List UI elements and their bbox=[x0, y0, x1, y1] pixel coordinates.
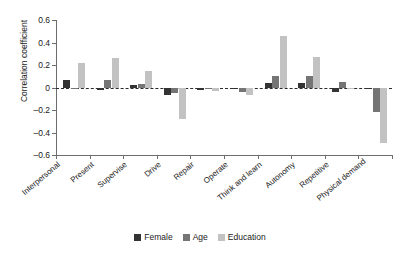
bar-group bbox=[90, 20, 124, 155]
bar-female bbox=[298, 83, 305, 88]
legend-item: Female bbox=[134, 232, 172, 242]
correlation-coefficient-bar-chart: Correlation coefficient 0.60.40.20–0.2–0… bbox=[0, 0, 400, 258]
bar-education bbox=[212, 88, 219, 91]
bar-education bbox=[78, 63, 85, 88]
bar-female bbox=[332, 88, 339, 93]
y-tick-label: 0.6 bbox=[10, 15, 50, 25]
plot-area: 0.60.40.20–0.2–0.4–0.6 bbox=[56, 20, 392, 155]
bar-education bbox=[380, 88, 387, 143]
bar-education bbox=[347, 88, 354, 89]
bar-female bbox=[231, 88, 238, 89]
legend-item: Education bbox=[218, 232, 266, 242]
y-tick-label: –0.4 bbox=[10, 128, 50, 138]
bar-female bbox=[97, 88, 104, 90]
bar-group bbox=[358, 20, 392, 155]
x-tick bbox=[224, 155, 225, 159]
bar-female bbox=[164, 88, 171, 96]
legend-label: Female bbox=[144, 232, 172, 242]
bar-education bbox=[313, 57, 320, 87]
x-tick bbox=[157, 155, 158, 159]
bar-group bbox=[325, 20, 359, 155]
legend-swatch-icon bbox=[218, 234, 225, 241]
bar-age bbox=[239, 88, 246, 93]
bar-group bbox=[224, 20, 258, 155]
x-tick bbox=[291, 155, 292, 159]
bar-age bbox=[104, 80, 111, 88]
legend-label: Age bbox=[193, 232, 208, 242]
bar-age bbox=[306, 76, 313, 87]
bar-education bbox=[246, 88, 253, 96]
bar-education bbox=[280, 36, 287, 88]
bar-age bbox=[373, 88, 380, 113]
bar-group bbox=[123, 20, 157, 155]
x-tick bbox=[90, 155, 91, 159]
legend-swatch-icon bbox=[183, 234, 190, 241]
bar-female bbox=[365, 88, 372, 89]
bar-female bbox=[197, 88, 204, 90]
bar-group bbox=[258, 20, 292, 155]
bar-age bbox=[171, 88, 178, 94]
legend-item: Age bbox=[183, 232, 208, 242]
bar-female bbox=[265, 83, 272, 88]
bar-female bbox=[130, 85, 137, 87]
y-tick-label: 0.2 bbox=[10, 60, 50, 70]
bar-female bbox=[63, 80, 70, 88]
x-tick bbox=[56, 155, 57, 159]
y-tick-label: 0.4 bbox=[10, 38, 50, 48]
legend-label: Education bbox=[228, 232, 266, 242]
bar-group bbox=[56, 20, 90, 155]
x-tick bbox=[258, 155, 259, 159]
legend-swatch-icon bbox=[134, 234, 141, 241]
x-tick bbox=[392, 155, 393, 159]
bar-group bbox=[190, 20, 224, 155]
bar-age bbox=[339, 82, 346, 88]
bar-education bbox=[145, 71, 152, 88]
bar-age bbox=[272, 76, 279, 87]
bar-group bbox=[157, 20, 191, 155]
bar-age bbox=[138, 84, 145, 87]
bar-age bbox=[205, 88, 212, 89]
x-tick bbox=[123, 155, 124, 159]
bar-group bbox=[291, 20, 325, 155]
x-tick bbox=[325, 155, 326, 159]
y-tick-label: –0.2 bbox=[10, 105, 50, 115]
bar-education bbox=[179, 88, 186, 120]
bar-age bbox=[71, 88, 78, 89]
y-tick-label: –0.6 bbox=[10, 150, 50, 160]
x-tick bbox=[190, 155, 191, 159]
bar-education bbox=[112, 58, 119, 87]
legend: FemaleAgeEducation bbox=[0, 232, 400, 242]
y-tick-label: 0 bbox=[10, 83, 50, 93]
